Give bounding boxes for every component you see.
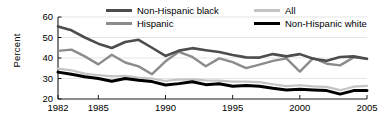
y-tick-label: 50 (42, 32, 53, 43)
y-tick-label: 40 (42, 52, 53, 63)
x-tick-label: 2005 (356, 102, 377, 113)
x-tick-label: 1995 (222, 102, 243, 113)
x-tick-label: 2000 (289, 102, 310, 113)
y-tick-label: 30 (42, 73, 53, 84)
x-tick-label: 1982 (47, 102, 68, 113)
chart-canvas: 2030405060198219851990199520002005 (0, 0, 378, 125)
series-line-hispanic (58, 50, 367, 75)
y-tick-label: 60 (42, 11, 53, 22)
series-line-non-hispanic-black (58, 26, 367, 60)
x-tick-label: 1985 (88, 102, 109, 113)
x-tick-label: 1990 (155, 102, 176, 113)
chart-figure: Non-Hispanic black All Hispanic Non-Hisp… (0, 0, 378, 125)
plot-area: 2030405060198219851990199520002005 (0, 0, 378, 125)
